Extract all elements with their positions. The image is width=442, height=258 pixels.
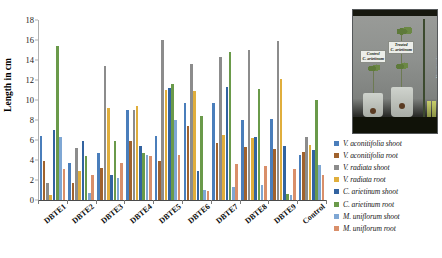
bar xyxy=(110,175,113,200)
legend-label: C. arietinum shoot xyxy=(343,187,398,196)
sample-tube-a xyxy=(427,101,431,117)
legend-item[interactable]: C. arietinum shoot xyxy=(334,186,442,198)
bar xyxy=(203,190,206,200)
x-axis-tick-labels: DBTE1DBTE2DBTE3DBTE4DBTE5DBTE6DBTE7DBTE8… xyxy=(38,202,327,252)
legend-item[interactable]: V. radiata root xyxy=(334,174,442,186)
x-tick-mark xyxy=(211,200,212,204)
bar xyxy=(63,169,66,200)
bar xyxy=(264,166,267,200)
bar xyxy=(254,137,257,200)
legend-item[interactable]: V. radiata shoot xyxy=(334,161,442,173)
bar xyxy=(171,84,174,200)
control-seed xyxy=(370,108,376,114)
bar xyxy=(100,168,103,200)
bar xyxy=(212,103,215,200)
measuring-rod xyxy=(423,19,425,117)
x-tick-mark xyxy=(182,200,183,204)
x-tick-label: DBTE5 xyxy=(157,202,183,225)
bar xyxy=(229,52,232,200)
bar xyxy=(174,120,177,200)
bar xyxy=(72,183,75,200)
bar xyxy=(120,163,123,200)
bar xyxy=(190,64,193,200)
bar xyxy=(126,110,129,200)
legend-swatch xyxy=(334,177,339,182)
bar xyxy=(315,100,318,200)
treated-foliage-upper xyxy=(397,26,412,37)
x-tick-mark xyxy=(240,200,241,204)
bar xyxy=(187,126,190,200)
legend-label: V. radiata root xyxy=(343,175,386,184)
treated-pot xyxy=(391,87,413,117)
bar xyxy=(158,161,161,200)
bar xyxy=(244,147,247,200)
bar xyxy=(155,136,158,200)
bar xyxy=(290,195,293,200)
plot-area: 024681012141618 xyxy=(38,20,326,200)
legend-item[interactable]: M. uniflorum root xyxy=(334,222,442,234)
bar xyxy=(114,141,117,200)
y-axis-label: Length in cm xyxy=(3,25,13,145)
bar xyxy=(318,165,321,200)
legend-item[interactable]: C. arietinum root xyxy=(334,198,442,210)
bar xyxy=(129,141,132,200)
bar xyxy=(305,137,308,200)
bar xyxy=(280,79,283,200)
control-foliage xyxy=(368,64,380,73)
sample-tube-b xyxy=(432,101,436,117)
bar xyxy=(46,183,49,200)
x-tick-mark xyxy=(153,200,154,204)
legend-item[interactable]: V. aconitifolia shoot xyxy=(334,137,442,149)
bar xyxy=(219,57,222,200)
bar-group xyxy=(67,20,96,200)
x-tick-mark xyxy=(268,200,269,204)
bar xyxy=(49,195,52,200)
bar-group xyxy=(268,20,297,200)
bar xyxy=(248,50,251,200)
bar xyxy=(82,141,85,200)
bar xyxy=(43,161,46,200)
bar xyxy=(136,106,139,200)
legend-item[interactable]: V. aconitifolia root xyxy=(334,149,442,161)
bar xyxy=(91,175,94,200)
x-tick-mark xyxy=(67,200,68,204)
legend-item[interactable]: M. uniflorum shoot xyxy=(334,210,442,222)
x-tick-mark xyxy=(38,200,39,204)
bar xyxy=(104,66,107,200)
treated-seed xyxy=(399,103,405,109)
bar xyxy=(197,171,200,200)
x-tick-label: DBTE1 xyxy=(42,202,68,225)
bar xyxy=(200,116,203,200)
x-tick-label: DBTE8 xyxy=(243,202,269,225)
x-tick-label: DBTE2 xyxy=(71,202,97,225)
x-tick-mark xyxy=(124,200,125,204)
bar xyxy=(293,169,296,200)
bar xyxy=(302,152,305,200)
control-caption-line2: C. arietinum xyxy=(363,57,384,62)
legend-swatch xyxy=(334,165,339,170)
x-tick-label: DBTE9 xyxy=(272,202,298,225)
bar xyxy=(261,185,264,200)
bar-group xyxy=(38,20,67,200)
legend-label: V. aconitifolia root xyxy=(343,151,398,160)
photo-top-strip xyxy=(353,10,437,16)
bar xyxy=(286,194,289,200)
x-tick-label: DBTE6 xyxy=(186,202,212,225)
bar xyxy=(232,187,235,200)
legend-swatch xyxy=(334,226,339,231)
bar xyxy=(59,137,62,200)
bar xyxy=(226,87,229,200)
bar xyxy=(273,149,276,200)
bar xyxy=(251,138,254,200)
bar xyxy=(75,148,78,200)
bar xyxy=(235,164,238,200)
inset-photograph: Control C. arietinum Treated C. arietinu… xyxy=(352,9,438,134)
legend-label: C. arietinum root xyxy=(343,200,394,209)
bar xyxy=(299,155,302,200)
bar-group xyxy=(124,20,153,200)
bar xyxy=(117,178,120,200)
bar xyxy=(184,103,187,200)
bar xyxy=(97,153,100,200)
bar xyxy=(146,155,149,200)
bar xyxy=(222,135,225,200)
